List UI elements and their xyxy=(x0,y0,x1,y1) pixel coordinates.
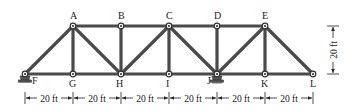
member-AH xyxy=(73,26,121,74)
joint-label-G: G xyxy=(69,78,76,89)
joint-A xyxy=(70,23,76,29)
dimension-horizontal-5: 20 ft xyxy=(218,94,264,104)
member-CJ xyxy=(169,26,217,74)
dimension-label: 20 ft xyxy=(184,94,202,104)
truss-members xyxy=(25,26,313,74)
joint-I xyxy=(166,71,172,77)
dimension-horizontal-3: 20 ft xyxy=(122,94,168,104)
dimension-horizontal-6: 20 ft xyxy=(266,94,312,104)
dimension-label: 20 ft xyxy=(88,94,106,104)
joint-G xyxy=(70,71,76,77)
dimension-label-vertical: 20 ft xyxy=(329,41,339,59)
joint-label-I: I xyxy=(166,78,169,89)
joint-label-C: C xyxy=(166,10,173,21)
dimension-horizontal-1: 20 ft xyxy=(26,94,72,104)
joint-label-B: B xyxy=(118,10,125,21)
dimension-horizontal-2: 20 ft xyxy=(74,94,120,104)
dimension-label: 20 ft xyxy=(280,94,298,104)
joint-label-H: H xyxy=(116,78,123,89)
dimension-label: 20 ft xyxy=(232,94,250,104)
dimension-horizontal-4: 20 ft xyxy=(170,94,216,104)
joint-label-A: A xyxy=(70,10,78,21)
member-JE xyxy=(217,26,265,74)
truss-diagram: ABCDEFGHIJKL 20 ft20 ft20 ft20 ft20 ft20… xyxy=(0,0,355,112)
member-FA xyxy=(25,26,73,74)
member-HC xyxy=(121,26,169,74)
joint-B xyxy=(118,23,124,29)
joint-label-E: E xyxy=(262,10,268,21)
member-EL xyxy=(265,26,313,74)
dimension-label: 20 ft xyxy=(136,94,154,104)
joint-label-D: D xyxy=(214,10,221,21)
joint-F xyxy=(22,71,28,77)
joint-J xyxy=(214,71,220,77)
joint-D xyxy=(214,23,220,29)
dimension-label: 20 ft xyxy=(40,94,58,104)
joint-C xyxy=(166,23,172,29)
joint-label-J: J xyxy=(207,75,211,86)
joint-label-K: K xyxy=(261,78,269,89)
joint-label-F: F xyxy=(32,75,38,86)
joint-label-L: L xyxy=(310,78,316,89)
joint-L xyxy=(310,71,316,77)
joint-labels: ABCDEFGHIJKL xyxy=(32,10,316,89)
joint-H xyxy=(118,71,124,77)
joint-K xyxy=(262,71,268,77)
joint-E xyxy=(262,23,268,29)
dimension-vertical: 20 ft xyxy=(327,26,339,74)
